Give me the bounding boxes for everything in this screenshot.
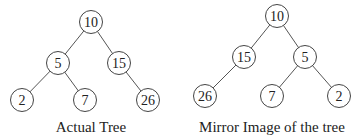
node-label: 10 [84,15,98,30]
node-label: 26 [141,93,155,108]
mirror-tree-caption: Mirror Image of the tree [199,119,345,135]
actual-tree-node-2: 2 [11,89,34,112]
node-label: 7 [82,93,89,108]
node-label: 5 [302,50,309,65]
binary-tree-diagram: 105152726101552672 Actual Tree Mirror Im… [0,0,362,138]
mirror-tree-node-26: 26 [194,85,217,108]
mirror-tree-node-15: 15 [233,46,256,69]
node-label: 2 [19,93,26,108]
node-label: 5 [55,56,62,71]
actual-tree-node-15: 15 [108,52,131,75]
edges-layer [22,16,339,100]
actual-tree-node-5: 5 [47,52,70,75]
mirror-tree-node-2: 2 [328,85,351,108]
node-label: 26 [198,89,212,104]
actual-tree-node-10: 10 [80,11,103,34]
actual-tree-node-7: 7 [74,89,97,112]
node-label: 2 [336,89,343,104]
mirror-tree-node-7: 7 [261,85,284,108]
nodes-layer: 105152726101552672 [11,5,351,112]
mirror-tree-node-5: 5 [294,46,317,69]
node-label: 15 [112,56,126,71]
actual-tree-node-26: 26 [137,89,160,112]
node-label: 7 [269,89,276,104]
mirror-tree-node-10: 10 [266,5,289,28]
node-label: 10 [270,9,284,24]
node-label: 15 [237,50,251,65]
actual-tree-caption: Actual Tree [56,119,127,135]
